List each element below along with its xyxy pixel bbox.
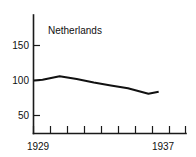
y-tick-label-150: 150	[12, 40, 29, 51]
y-tick-label-100: 100	[12, 75, 29, 86]
x-tick-label-start: 1929	[27, 141, 50, 152]
chart-title: Netherlands	[48, 25, 102, 36]
y-tick-label-50: 50	[18, 110, 30, 121]
chart-screen: 150 100 50 1929 1937 Netherlands	[0, 0, 196, 157]
line-chart: 150 100 50 1929 1937 Netherlands	[0, 0, 196, 157]
x-tick-label-end: 1937	[152, 141, 175, 152]
